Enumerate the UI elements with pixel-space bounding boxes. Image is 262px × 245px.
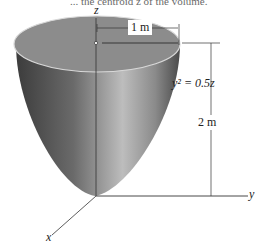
paraboloid-diagram [0, 0, 262, 245]
z-axis-label: z [94, 3, 99, 18]
y-axis-label: y [249, 187, 254, 202]
height-label: 2 m [196, 115, 218, 130]
radius-label: 1 m [128, 20, 152, 35]
x-axis-label: x [46, 230, 51, 245]
equation-label: y² = 0.5z [172, 76, 215, 91]
